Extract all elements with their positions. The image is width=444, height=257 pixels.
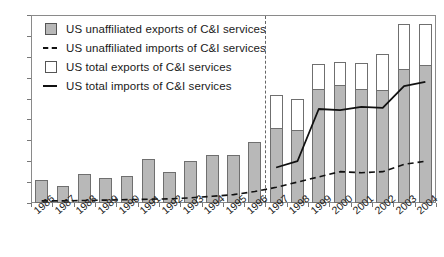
legend-label: US unaffiliated imports of C&I services <box>66 42 266 54</box>
legend-label: US unaffiliated exports of C&I services <box>66 23 266 35</box>
legend-key-solid-line-icon <box>44 79 57 92</box>
chart-container: 0123456789 19861987198819891990199119921… <box>0 0 444 257</box>
legend-label: US total imports of C&I services <box>66 80 232 92</box>
legend-item-total-imports: US total imports of C&I services <box>44 76 266 95</box>
legend-key-gray-swatch-icon <box>44 22 57 35</box>
legend-item-total-exports: US total exports of C&I services <box>44 57 266 76</box>
bar-unaffiliated-exports <box>398 69 411 203</box>
legend-label: US total exports of C&I services <box>66 61 232 73</box>
bar-unaffiliated-exports <box>376 90 389 203</box>
chart-legend: US unaffiliated exports of C&I services … <box>44 19 266 95</box>
legend-key-white-swatch-icon <box>44 60 57 73</box>
bar-unaffiliated-exports <box>355 89 368 203</box>
legend-key-dashed-line-icon <box>44 41 57 54</box>
legend-item-unaffiliated-exports: US unaffiliated exports of C&I services <box>44 19 266 38</box>
bar-unaffiliated-exports <box>419 65 432 203</box>
bar-unaffiliated-exports <box>270 128 283 203</box>
legend-item-unaffiliated-imports: US unaffiliated imports of C&I services <box>44 38 266 57</box>
bar-unaffiliated-exports <box>334 85 347 203</box>
bar-unaffiliated-exports <box>312 89 325 203</box>
